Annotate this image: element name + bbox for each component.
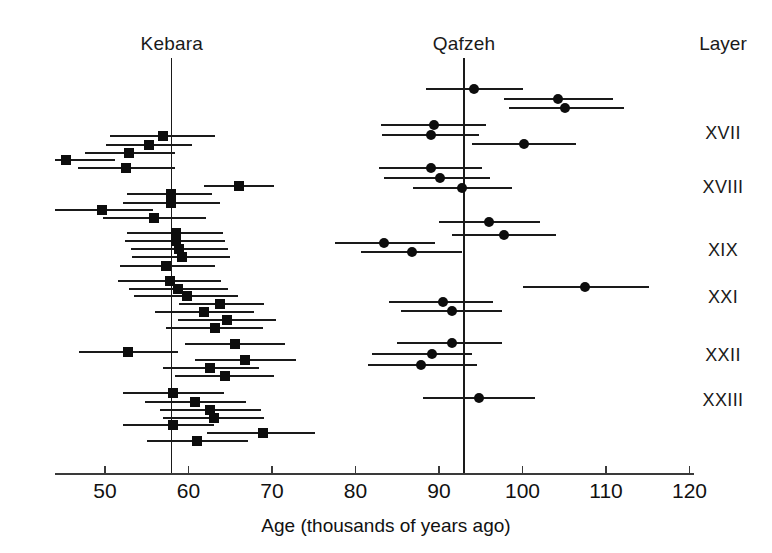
data-point-kebara xyxy=(220,371,230,381)
data-point-qafzeh xyxy=(457,183,467,193)
data-point-qafzeh xyxy=(553,94,563,104)
x-tick-80 xyxy=(355,466,356,473)
data-point-qafzeh xyxy=(416,360,426,370)
data-point-kebara xyxy=(149,213,159,223)
data-point-kebara xyxy=(199,307,209,317)
data-point-kebara xyxy=(258,428,268,438)
data-point-kebara xyxy=(209,413,219,423)
x-axis-line xyxy=(55,473,694,475)
data-point-kebara xyxy=(168,420,178,430)
data-point-qafzeh xyxy=(426,130,436,140)
data-point-qafzeh xyxy=(560,103,570,113)
data-point-qafzeh xyxy=(447,306,457,316)
data-point-kebara xyxy=(240,355,250,365)
data-point-kebara xyxy=(205,363,215,373)
layer-label-xix: XIX xyxy=(708,240,738,261)
data-point-qafzeh xyxy=(379,238,389,248)
x-tick-70 xyxy=(271,466,272,473)
data-point-kebara xyxy=(210,323,220,333)
x-tick-label-50: 50 xyxy=(93,479,116,503)
data-point-kebara xyxy=(123,347,133,357)
data-point-kebara xyxy=(161,261,171,271)
x-tick-label-70: 70 xyxy=(260,479,283,503)
data-point-kebara xyxy=(166,198,176,208)
x-tick-label-60: 60 xyxy=(177,479,200,503)
data-point-qafzeh xyxy=(474,393,484,403)
data-point-qafzeh xyxy=(427,349,437,359)
x-tick-label-110: 110 xyxy=(589,479,622,503)
x-tick-label-90: 90 xyxy=(427,479,450,503)
x-tick-50 xyxy=(104,466,105,473)
data-point-kebara xyxy=(190,397,200,407)
data-point-qafzeh xyxy=(438,297,448,307)
data-point-qafzeh xyxy=(426,163,436,173)
x-tick-label-100: 100 xyxy=(505,479,540,503)
data-point-qafzeh xyxy=(429,120,439,130)
layer-label-xxiii: XXIII xyxy=(702,390,743,411)
plot-area xyxy=(0,0,772,553)
data-point-kebara xyxy=(61,155,71,165)
data-point-qafzeh xyxy=(580,282,590,292)
layer-label-xxi: XXI xyxy=(708,287,738,308)
data-point-kebara xyxy=(168,388,178,398)
x-tick-90 xyxy=(438,466,439,473)
layer-label-xvii: XVII xyxy=(705,123,741,144)
data-point-kebara xyxy=(192,436,202,446)
layer-label-xviii: XVIII xyxy=(702,177,743,198)
data-point-kebara xyxy=(121,163,131,173)
data-point-qafzeh xyxy=(519,139,529,149)
data-point-kebara xyxy=(158,131,168,141)
x-tick-100 xyxy=(522,466,523,473)
data-point-qafzeh xyxy=(469,84,479,94)
data-point-kebara xyxy=(177,252,187,262)
error-bar-qafzeh xyxy=(372,353,472,355)
layer-label-xxii: XXII xyxy=(705,345,741,366)
data-point-kebara xyxy=(97,205,107,215)
x-tick-label-80: 80 xyxy=(344,479,367,503)
data-point-kebara xyxy=(230,339,240,349)
data-point-qafzeh xyxy=(484,217,494,227)
x-tick-60 xyxy=(188,466,189,473)
data-point-qafzeh xyxy=(407,247,417,257)
data-point-kebara xyxy=(182,291,192,301)
reference-line-qafzeh xyxy=(463,58,464,473)
x-tick-label-120: 120 xyxy=(672,479,707,503)
figure-root: Kebara Qafzeh Layer 5060708090100110120 … xyxy=(0,0,772,553)
data-point-qafzeh xyxy=(447,338,457,348)
data-point-kebara xyxy=(124,148,134,158)
data-point-kebara xyxy=(144,140,154,150)
data-point-qafzeh xyxy=(435,173,445,183)
x-axis-title: Age (thousands of years ago) xyxy=(261,515,510,537)
x-tick-120 xyxy=(689,466,690,473)
data-point-kebara xyxy=(222,315,232,325)
x-tick-110 xyxy=(605,466,606,473)
data-point-kebara xyxy=(234,181,244,191)
data-point-qafzeh xyxy=(499,230,509,240)
data-point-kebara xyxy=(215,299,225,309)
